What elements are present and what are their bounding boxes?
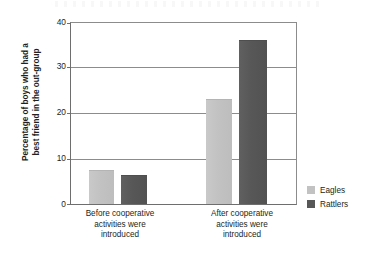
bar-after-eagles bbox=[206, 99, 232, 204]
legend-item-rattlers: Rattlers bbox=[307, 199, 348, 209]
y-tickmark-0 bbox=[67, 204, 71, 205]
bar-before-eagles bbox=[89, 170, 114, 204]
legend-item-eagles: Eagles bbox=[307, 185, 348, 195]
category-label-after-line-2: activities were bbox=[167, 220, 317, 231]
y-tickmark-10 bbox=[67, 159, 71, 160]
y-tickmark-20 bbox=[67, 113, 71, 114]
chart-legend: Eagles Rattlers bbox=[307, 185, 348, 213]
plot-area bbox=[70, 22, 297, 205]
y-axis-title: Percentage of boys who had a best friend… bbox=[14, 9, 48, 195]
y-tickmark-30 bbox=[67, 67, 71, 68]
y-tick-label-20: 20 bbox=[44, 108, 66, 116]
category-label-after: After cooperative activities were introd… bbox=[167, 209, 317, 241]
scan-artifact bbox=[55, 1, 320, 7]
legend-swatch-eagles-icon bbox=[307, 186, 315, 194]
legend-swatch-rattlers-icon bbox=[307, 200, 315, 208]
y-tick-label-40: 40 bbox=[44, 18, 66, 26]
y-tick-label-30: 30 bbox=[44, 62, 66, 70]
category-label-after-line-3: introduced bbox=[167, 230, 317, 241]
bar-chart-figure: Percentage of boys who had a best friend… bbox=[0, 0, 369, 259]
y-tick-label-10: 10 bbox=[44, 154, 66, 162]
y-axis-title-line-1: Percentage of boys who had a bbox=[20, 43, 31, 161]
legend-label-eagles: Eagles bbox=[320, 186, 345, 195]
y-tick-label-0: 0 bbox=[44, 200, 66, 208]
bar-before-rattlers bbox=[121, 175, 147, 204]
y-axis-title-line-2: best friend in the out-group bbox=[31, 43, 42, 161]
bar-after-rattlers bbox=[239, 40, 267, 204]
y-tickmark-40 bbox=[67, 23, 71, 24]
category-label-after-line-1: After cooperative bbox=[167, 209, 317, 220]
legend-label-rattlers: Rattlers bbox=[320, 200, 348, 209]
